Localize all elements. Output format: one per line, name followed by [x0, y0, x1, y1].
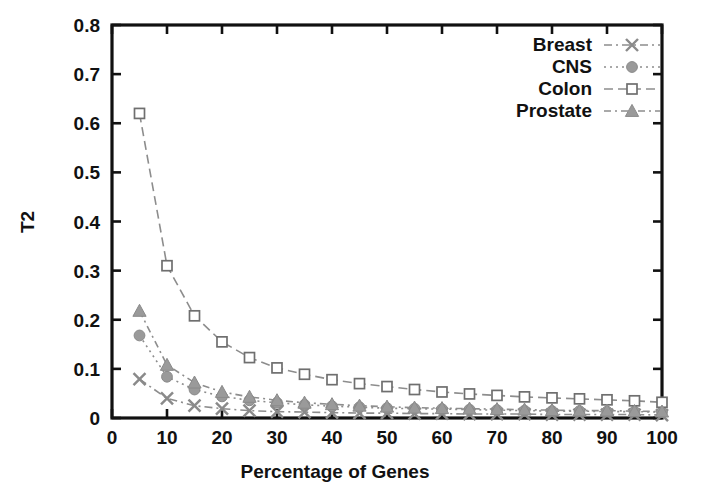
- x-axis-tick-labels: 0102030405060708090100: [107, 427, 678, 448]
- data-point-cross: [134, 373, 146, 385]
- x-tick-label: 20: [211, 427, 232, 448]
- data-point-square: [465, 389, 475, 399]
- series-colon: [135, 108, 668, 407]
- data-point-square: [547, 393, 557, 403]
- data-point-square: [627, 84, 637, 94]
- data-point-square: [355, 379, 365, 389]
- chart-canvas: 0102030405060708090100 00.10.20.30.40.50…: [0, 0, 705, 496]
- y-axis-title: T2: [17, 211, 38, 233]
- y-tick-label: 0.6: [74, 113, 100, 134]
- chart-legend: BreastCNSColonProstate: [516, 34, 660, 121]
- series-prostate: [133, 304, 669, 417]
- y-tick-label: 0.4: [74, 212, 101, 233]
- data-point-triangle: [243, 390, 256, 402]
- data-point-square: [135, 108, 145, 118]
- x-tick-label: 80: [541, 427, 562, 448]
- data-point-square: [492, 390, 502, 400]
- y-tick-label: 0.5: [74, 162, 101, 183]
- legend-label-cns: CNS: [552, 56, 592, 77]
- data-point-square: [575, 394, 585, 404]
- x-tick-label: 60: [431, 427, 452, 448]
- data-point-square: [382, 382, 392, 392]
- y-tick-label: 0.3: [74, 261, 100, 282]
- data-point-square: [162, 261, 172, 271]
- x-tick-label: 0: [107, 427, 118, 448]
- y-tick-label: 0.8: [74, 15, 100, 36]
- y-tick-label: 0.7: [74, 64, 100, 85]
- x-tick-label: 30: [266, 427, 287, 448]
- data-point-circle: [627, 62, 638, 73]
- data-point-square: [190, 311, 200, 321]
- data-point-square: [272, 363, 282, 373]
- legend-label-breast: Breast: [533, 34, 593, 55]
- y-tick-label: 0.2: [74, 310, 100, 331]
- data-series-layer: [133, 108, 669, 421]
- x-tick-label: 100: [646, 427, 678, 448]
- data-point-triangle: [133, 304, 146, 316]
- y-tick-label: 0: [89, 408, 100, 429]
- legend-label-colon: Colon: [538, 78, 592, 99]
- data-point-square: [245, 353, 255, 363]
- x-tick-label: 50: [376, 427, 397, 448]
- data-point-square: [520, 392, 530, 402]
- data-point-circle: [134, 330, 145, 341]
- data-point-square: [327, 375, 337, 385]
- data-point-square: [217, 337, 227, 347]
- x-tick-label: 40: [321, 427, 342, 448]
- legend-label-prostate: Prostate: [516, 100, 592, 121]
- data-point-triangle: [160, 358, 173, 370]
- chart-figure: 0102030405060708090100 00.10.20.30.40.50…: [0, 0, 705, 496]
- x-tick-label: 70: [486, 427, 507, 448]
- x-tick-label: 90: [596, 427, 617, 448]
- y-tick-label: 0.1: [74, 359, 101, 380]
- data-point-triangle: [215, 385, 228, 397]
- x-axis-title: Percentage of Genes: [240, 461, 429, 482]
- series-cns: [134, 330, 667, 417]
- y-axis-tick-labels: 00.10.20.30.40.50.60.70.8: [74, 15, 101, 429]
- x-tick-label: 10: [156, 427, 177, 448]
- data-point-cross: [161, 392, 173, 404]
- data-point-square: [437, 387, 447, 397]
- data-point-square: [300, 369, 310, 379]
- data-point-triangle: [188, 376, 201, 388]
- series-breast: [134, 373, 669, 421]
- data-point-circle: [162, 371, 173, 382]
- data-point-square: [410, 385, 420, 395]
